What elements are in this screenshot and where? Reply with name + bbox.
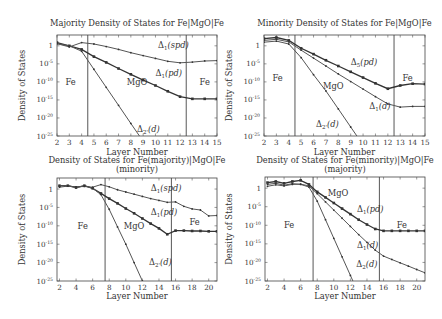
data-point — [141, 195, 143, 197]
data-point — [399, 230, 402, 233]
y-tick-label: 10-5 — [246, 59, 260, 68]
data-point — [300, 184, 302, 186]
x-tick-label: 5 — [92, 138, 97, 147]
data-point — [267, 185, 269, 187]
data-point — [313, 74, 315, 76]
x-tick-label: 10 — [358, 138, 368, 147]
tick-exponent: -15 — [254, 239, 261, 244]
tick-exponent: -10 — [254, 221, 261, 226]
x-axis-label: Layer Number — [314, 291, 375, 301]
data-point — [158, 227, 161, 230]
y-axis-label: Density of States — [224, 193, 234, 265]
tick-base: 10 — [39, 203, 49, 212]
x-tick-label: 20 — [204, 283, 214, 292]
data-point — [93, 68, 95, 70]
series-label-orbital: (pd) — [360, 57, 377, 67]
data-point — [316, 200, 318, 202]
y-tick-label: 10-10 — [36, 77, 53, 86]
tick-base: 10 — [36, 132, 46, 141]
data-point — [108, 186, 110, 188]
x-tick-label: 12 — [175, 138, 184, 147]
tick-base: 10 — [36, 77, 46, 86]
x-tick-label: 11 — [163, 138, 172, 147]
data-point — [362, 76, 365, 79]
region-label: Fe — [403, 73, 413, 83]
data-point — [341, 207, 344, 210]
series-line — [60, 185, 218, 216]
data-point — [325, 90, 327, 92]
x-tick-label: 13 — [188, 138, 198, 147]
tick-exponent: -10 — [253, 77, 260, 82]
data-point — [149, 222, 152, 225]
data-point — [312, 53, 315, 56]
series-label-orbital: (d) — [327, 119, 339, 129]
data-point — [81, 50, 83, 52]
data-point — [207, 230, 210, 233]
region-label: Fe — [273, 73, 283, 83]
chart-title: (minority) — [116, 164, 158, 174]
region-label: Fe — [78, 221, 88, 231]
region-label: MgO — [124, 221, 145, 231]
x-tick-label: 16 — [379, 283, 389, 292]
data-point — [117, 226, 119, 228]
region-label: Fe — [397, 220, 407, 230]
y-tick-label: 10-20 — [36, 258, 53, 267]
data-point — [133, 193, 135, 195]
tick-exponent: -20 — [254, 258, 261, 263]
data-point — [350, 81, 352, 83]
series-label-orbital: (spd) — [160, 183, 181, 193]
data-point — [349, 275, 351, 277]
y-tick-label: 10-15 — [244, 239, 261, 248]
x-tick-label: 8 — [129, 138, 134, 147]
data-point — [341, 217, 343, 219]
region-label: Fe — [190, 217, 200, 227]
data-point — [399, 84, 402, 87]
tick-base: 10 — [39, 59, 49, 68]
data-point — [407, 230, 410, 233]
data-point — [158, 200, 160, 202]
data-point — [105, 46, 107, 48]
tick-exponent: -20 — [253, 113, 260, 118]
data-point — [275, 182, 277, 184]
data-point — [203, 98, 206, 101]
chart-panel-3: Density of States for Fe(majority)|MgO|F… — [17, 155, 226, 301]
series-label: Δ2'(d) — [149, 257, 172, 268]
y-tick-label: 10-10 — [243, 77, 260, 86]
data-point — [125, 243, 127, 245]
tick-exponent: -20 — [46, 258, 53, 263]
x-tick-label: 2 — [265, 283, 270, 292]
tick-base: 10 — [36, 113, 46, 122]
chart-title: Minority Density of States for Fe|MgO|Fe — [257, 18, 431, 29]
data-point — [83, 185, 85, 187]
data-point — [362, 88, 364, 90]
data-point — [325, 65, 327, 67]
y-tick-label: 10-20 — [244, 258, 261, 267]
data-point — [387, 87, 390, 90]
data-point — [288, 43, 290, 45]
data-point — [142, 79, 145, 82]
tick-base: 10 — [36, 277, 46, 286]
data-point — [59, 185, 61, 187]
tick-exponent: -15 — [46, 95, 53, 100]
data-point — [108, 197, 111, 200]
y-tick-label: 1 — [48, 41, 53, 50]
data-point — [191, 230, 194, 233]
x-tick-label: 18 — [188, 283, 198, 292]
data-point — [67, 185, 69, 187]
data-point — [299, 179, 302, 182]
x-tick-label: 12 — [383, 138, 392, 147]
data-point — [316, 193, 318, 195]
region-label: MgO — [323, 81, 344, 91]
data-point — [399, 262, 401, 264]
series-label: Δ5(pd) — [351, 57, 378, 68]
y-tick-label: 1 — [256, 184, 261, 193]
data-point — [341, 256, 343, 258]
tick-base: 10 — [36, 240, 46, 249]
data-point — [263, 40, 265, 42]
data-point — [200, 209, 202, 211]
data-point — [116, 202, 119, 205]
data-point — [375, 96, 377, 98]
data-point — [166, 201, 168, 203]
data-point — [424, 106, 426, 108]
x-tick-label: 6 — [104, 138, 109, 147]
